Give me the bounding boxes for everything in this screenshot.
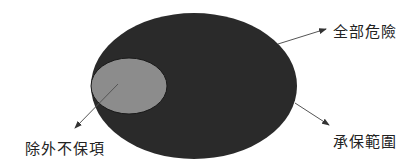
exclusions-ellipse bbox=[91, 58, 167, 114]
all-risks-label: 全部危險 bbox=[333, 20, 397, 41]
covered-scope-label: 承保範圍 bbox=[333, 130, 397, 151]
all-risks-arrow bbox=[278, 29, 326, 44]
exclusions-label: 除外不保項 bbox=[25, 137, 105, 158]
covered-scope-arrow bbox=[295, 103, 329, 125]
